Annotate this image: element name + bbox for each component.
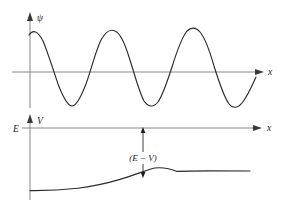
potential-axis-label: V — [37, 116, 44, 126]
psi-axis-label: ψ — [37, 13, 44, 23]
energy-level-label: E — [12, 124, 19, 134]
potential-step-curve — [30, 168, 250, 191]
measure-arrowhead-down — [141, 172, 146, 178]
psi-wave-curve — [29, 28, 256, 107]
physics-figure: ψ x V x E (E − V) — [0, 0, 284, 214]
psi-x-axis-arrowhead — [255, 69, 264, 75]
potential-x-axis-arrowhead — [253, 125, 262, 131]
psi-x-axis-label: x — [267, 67, 273, 77]
potential-x-axis-label: x — [266, 123, 272, 133]
figure-canvas: ψ x V x E (E − V) — [0, 0, 284, 214]
potential-y-axis-arrowhead — [27, 114, 33, 123]
energy-minus-potential-label: (E − V) — [129, 153, 157, 163]
wavefunction-plot — [12, 12, 264, 108]
psi-y-axis-arrowhead — [27, 12, 33, 21]
